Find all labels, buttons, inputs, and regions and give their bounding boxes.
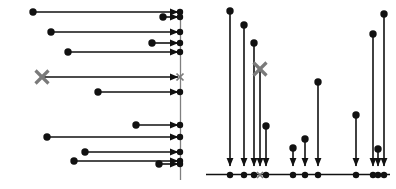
right-arrow-group [230, 11, 384, 166]
right-start-dot-R8 [314, 78, 321, 85]
right-baseline-dot-RB11 [375, 172, 381, 178]
left-start-dot-L11 [70, 157, 77, 164]
right-start-dot-R11 [374, 145, 381, 152]
left-target-dot-LT10 [177, 149, 183, 155]
right-start-dot-R12 [380, 10, 387, 17]
right-start-dot-R1 [226, 7, 233, 14]
left-panel [0, 0, 198, 189]
left-start-dot-L9 [43, 133, 50, 140]
left-start-dot-L5 [64, 48, 71, 55]
right-baseline-dot-RB6 [290, 172, 296, 178]
left-target-dot-LT4 [177, 40, 183, 46]
right-start-dot-R6 [289, 144, 296, 151]
right-start-dot-R10 [369, 30, 376, 37]
right-panel [198, 0, 396, 189]
right-panel-canvas [198, 0, 396, 189]
left-target-dot-LT3 [177, 29, 183, 35]
left-panel-canvas [0, 0, 198, 189]
right-baseline-dot-RB3 [251, 172, 257, 178]
left-target-dot-LT8 [177, 122, 183, 128]
right-baseline-dot-RB2 [241, 172, 247, 178]
right-start-dot-R7 [301, 135, 308, 142]
right-baseline-dot-RB5 [263, 172, 269, 178]
left-start-dot-L8 [132, 121, 139, 128]
left-start-dot-L1 [29, 8, 36, 15]
right-baseline-dot-RB8 [315, 172, 321, 178]
left-arrow-group [33, 12, 178, 164]
left-start-dot-L12 [155, 160, 162, 167]
right-baseline-dot-RB1 [227, 172, 233, 178]
left-start-dot-L2 [159, 13, 166, 20]
figure-root [0, 0, 396, 189]
right-baseline-dot-RB7 [302, 172, 308, 178]
left-target-dot-LT9 [177, 134, 183, 140]
left-target-dot-LT2 [177, 14, 183, 20]
right-baseline-dot-RB9 [353, 172, 359, 178]
left-start-dot-L3 [47, 28, 54, 35]
left-target-dot-LT12 [177, 161, 183, 167]
right-baseline-dot-RB12 [381, 172, 387, 178]
left-start-dot-L4 [148, 39, 155, 46]
right-start-dot-R2 [240, 21, 247, 28]
left-target-dot-LT5 [177, 49, 183, 55]
right-start-dot-R9 [352, 111, 359, 118]
left-target-dot-LT7 [177, 89, 183, 95]
right-start-marker-group [226, 7, 387, 152]
right-start-dot-R3 [250, 39, 257, 46]
left-start-dot-L7 [94, 88, 101, 95]
right-start-dot-R5 [262, 122, 269, 129]
left-start-dot-L10 [81, 148, 88, 155]
